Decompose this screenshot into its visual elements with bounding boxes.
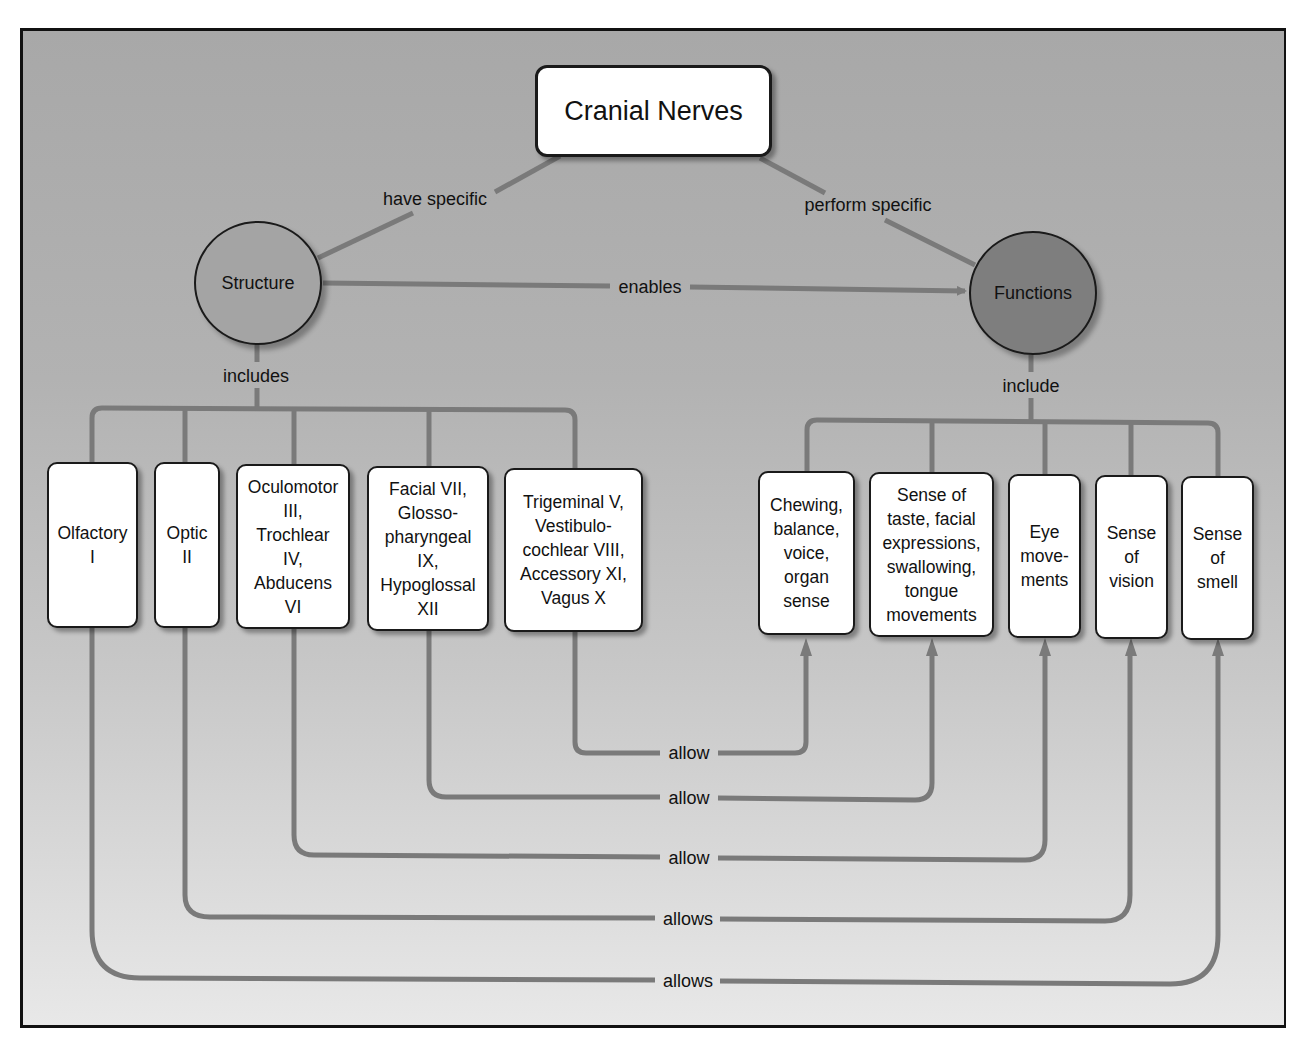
structure-node-label: Trigeminal V, Vestibulo- cochlear VIII, … (520, 490, 627, 610)
title-node: Cranial Nerves (535, 65, 772, 157)
functions-label: Functions (994, 283, 1072, 304)
title-text: Cranial Nerves (564, 99, 743, 123)
function-node-chewing: Chewing, balance, voice, organ sense (758, 471, 855, 635)
functions-concept: Functions (969, 231, 1097, 355)
function-node-taste: Sense of taste, facial expressions, swal… (869, 472, 994, 637)
link-label-includes: includes (219, 366, 293, 387)
relation-label-2: allow (664, 788, 713, 809)
structure-node-facial: Facial VII, Glosso- pharyngeal IX, Hypog… (367, 466, 489, 631)
relation-label-5: allows (659, 971, 717, 992)
link-label-have-specific: have specific (379, 189, 491, 210)
structure-node-label: Oculomotor III, Trochlear IV, Abducens V… (248, 475, 338, 619)
link-label-enables: enables (614, 277, 685, 298)
structure-node-label: Facial VII, Glosso- pharyngeal IX, Hypog… (380, 477, 475, 621)
structure-label: Structure (221, 273, 294, 294)
function-node-label: Sense of vision (1107, 521, 1157, 593)
relation-label-4: allows (659, 909, 717, 930)
structure-node-olfactory: Olfactory I (47, 462, 138, 628)
structure-node-oculomotor: Oculomotor III, Trochlear IV, Abducens V… (236, 464, 350, 629)
relation-label-1: allow (664, 743, 713, 764)
function-node-label: Sense of smell (1193, 522, 1243, 594)
relation-label-3: allow (664, 848, 713, 869)
structure-node-label: Optic II (167, 521, 208, 569)
function-node-eye-movements: Eye move- ments (1008, 474, 1081, 638)
structure-node-trigeminal: Trigeminal V, Vestibulo- cochlear VIII, … (504, 468, 643, 632)
structure-concept: Structure (194, 221, 322, 345)
function-node-label: Chewing, balance, voice, organ sense (770, 493, 843, 613)
function-node-label: Sense of taste, facial expressions, swal… (882, 483, 980, 627)
link-label-perform-specific: perform specific (800, 195, 935, 216)
function-node-smell: Sense of smell (1181, 476, 1254, 640)
function-node-vision: Sense of vision (1095, 475, 1168, 639)
link-label-include: include (998, 376, 1063, 397)
structure-node-label: Olfactory I (57, 521, 127, 569)
function-node-label: Eye move- ments (1020, 520, 1069, 592)
structure-node-optic: Optic II (154, 462, 220, 628)
